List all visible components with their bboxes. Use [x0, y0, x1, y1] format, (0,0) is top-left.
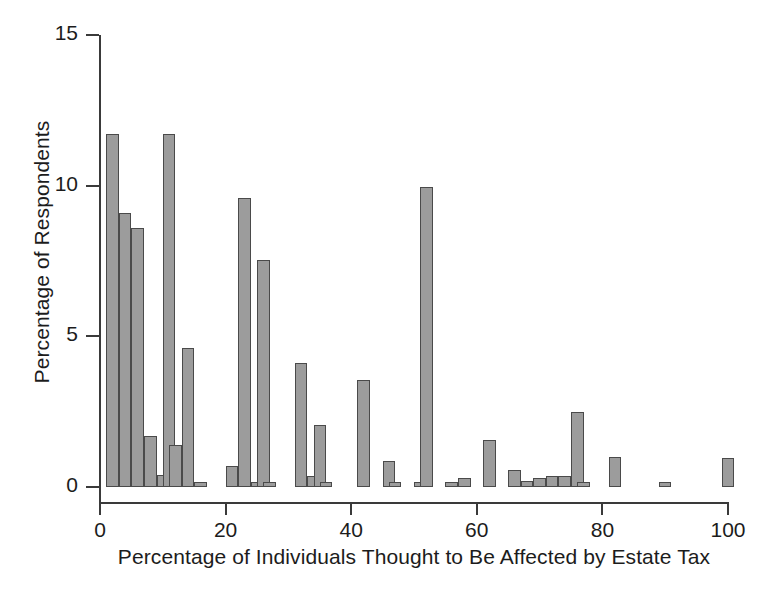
y-axis-title: Percentage of Respondents [30, 42, 54, 462]
x-axis-tick-label: 60 [447, 518, 507, 542]
y-axis-tick-label: 15 [30, 21, 78, 45]
histogram-bar [577, 482, 590, 487]
histogram-bar [238, 198, 251, 487]
plot-area [100, 35, 728, 487]
x-axis-tick [727, 502, 729, 515]
x-axis-tick [99, 502, 101, 515]
histogram-bar [169, 445, 182, 487]
x-axis-tick [476, 502, 478, 515]
histogram-bar [226, 466, 239, 487]
histogram-bar [609, 457, 622, 487]
y-axis-tick [86, 335, 99, 337]
x-axis-tick [601, 502, 603, 515]
x-axis-tick-label: 100 [698, 518, 758, 542]
histogram-bar [119, 213, 132, 487]
histogram-bar [182, 348, 195, 487]
histogram-bar [131, 228, 144, 487]
histogram-bar [357, 380, 370, 487]
histogram-bar [483, 440, 496, 487]
x-axis-tick [225, 502, 227, 515]
histogram-bar [508, 470, 521, 487]
histogram-bar [314, 425, 327, 487]
histogram-bar [420, 187, 433, 487]
x-axis-tick-label: 0 [70, 518, 130, 542]
y-axis-tick [86, 486, 99, 488]
histogram-bar [659, 482, 672, 487]
histogram-bar [546, 476, 559, 487]
x-axis-tick [350, 502, 352, 515]
histogram-bar [458, 478, 471, 487]
histogram-bar [295, 363, 308, 487]
y-axis-tick [86, 185, 99, 187]
y-axis-tick-label: 5 [30, 322, 78, 346]
x-axis-tick-label: 20 [196, 518, 256, 542]
histogram-bar [320, 482, 333, 487]
histogram-bar [389, 482, 402, 487]
histogram-bar [722, 458, 735, 487]
x-axis-line [99, 502, 729, 504]
y-axis-tick [86, 34, 99, 36]
histogram-bar [521, 481, 534, 487]
histogram-bar [163, 134, 176, 487]
histogram-bar [445, 482, 458, 487]
x-axis-tick-label: 80 [572, 518, 632, 542]
histogram-bar [558, 476, 571, 487]
histogram-bar [257, 260, 270, 488]
histogram-bar [144, 436, 157, 487]
x-axis-title: Percentage of Individuals Thought to Be … [100, 545, 728, 569]
y-axis-tick-label: 0 [30, 473, 78, 497]
histogram-figure: Percentage of Respondents Percentage of … [0, 0, 768, 592]
histogram-bar [533, 478, 546, 487]
histogram-bar [106, 134, 119, 487]
histogram-bar [571, 412, 584, 487]
y-axis-tick-label: 10 [30, 172, 78, 196]
histogram-bar [194, 482, 207, 487]
histogram-bar [263, 482, 276, 487]
x-axis-tick-label: 40 [321, 518, 381, 542]
axis-corner-line [99, 487, 101, 503]
